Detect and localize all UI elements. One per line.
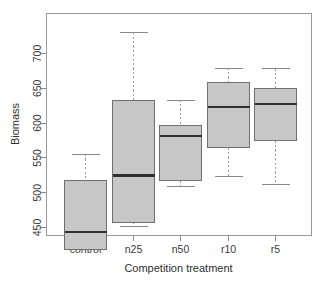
- box-n25: [113, 32, 155, 227]
- y-axis-tick-label: 450: [31, 219, 43, 237]
- y-axis-tick-label: 550: [31, 149, 43, 167]
- box-body: [208, 83, 250, 148]
- boxplot-figure: 450500550600650700 controln25n50r10r5 Co…: [0, 0, 317, 284]
- box-r5: [255, 68, 297, 184]
- box-r10: [208, 68, 250, 177]
- x-axis-title: Competition treatment: [124, 262, 232, 274]
- box-body: [113, 100, 155, 222]
- box-body: [160, 125, 202, 180]
- y-axis-tick-label: 650: [31, 79, 43, 97]
- y-axis-title: Biomass: [9, 102, 21, 145]
- box-n50: [160, 100, 202, 187]
- y-axis: 450500550600650700: [31, 45, 46, 237]
- box-series: [65, 32, 297, 250]
- y-axis-tick-label: 600: [31, 114, 43, 132]
- y-axis-tick-label: 700: [31, 45, 43, 63]
- box-body: [65, 180, 107, 250]
- x-axis-tick-label-n50: n50: [172, 243, 190, 255]
- box-control: [65, 154, 107, 250]
- box-body: [255, 88, 297, 140]
- x-axis-tick-label-r5: r5: [271, 243, 280, 255]
- x-axis-tick-label-r10: r10: [221, 243, 236, 255]
- x-axis-tick-label-n25: n25: [125, 243, 143, 255]
- plot-canvas: 450500550600650700 controln25n50r10r5 Co…: [0, 0, 317, 284]
- y-axis-tick-label: 500: [31, 184, 43, 202]
